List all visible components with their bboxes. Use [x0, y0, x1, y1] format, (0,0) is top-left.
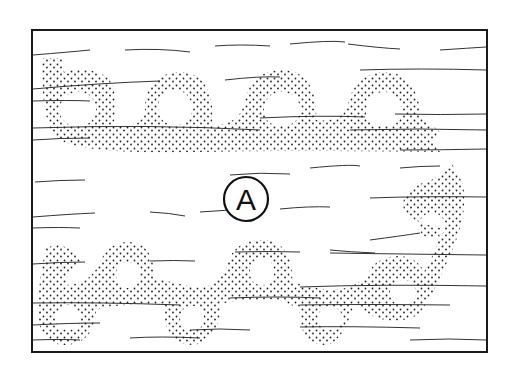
figure-label-badge: A: [224, 177, 268, 221]
figure-label: A: [236, 183, 256, 216]
stippled-chain-illustration: A: [0, 0, 517, 373]
